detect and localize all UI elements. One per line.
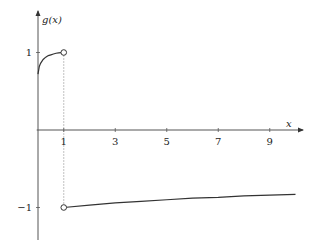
x-axis-label: x xyxy=(286,118,292,129)
x-tick-label: 3 xyxy=(112,136,118,147)
y-axis-label: g(x) xyxy=(42,14,62,25)
x-tick-label: 1 xyxy=(61,136,67,147)
axes xyxy=(37,11,303,240)
x-tick-label: 9 xyxy=(267,136,273,147)
y-tick-label: −1 xyxy=(17,202,32,213)
chart: 135791−1 g(x) x xyxy=(0,0,309,243)
series-line-1 xyxy=(38,53,64,75)
x-tick-label: 7 xyxy=(215,136,221,147)
series-line-2 xyxy=(64,194,296,207)
open-point xyxy=(61,205,67,211)
open-point xyxy=(61,50,67,56)
y-tick-label: 1 xyxy=(26,47,32,58)
x-tick-label: 5 xyxy=(164,136,170,147)
